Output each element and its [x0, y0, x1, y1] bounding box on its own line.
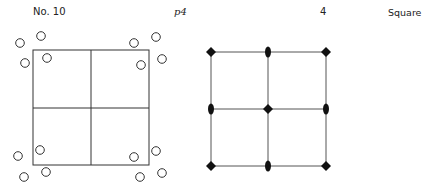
- motif-circle: [130, 39, 139, 48]
- motif-circle: [37, 32, 46, 41]
- fourfold-rotation-icon: [321, 161, 331, 171]
- motif-circle: [152, 147, 161, 156]
- fourfold-rotation-icon: [206, 161, 216, 171]
- twofold-rotation-icon: [265, 161, 271, 172]
- fourfold-rotation-icon: [321, 47, 331, 57]
- motif-circle: [36, 146, 45, 155]
- motif-circle: [130, 153, 139, 162]
- motif-circle: [14, 152, 23, 161]
- symmetry-element-diagram: [206, 47, 331, 172]
- fourfold-rotation-icon: [206, 47, 216, 57]
- motif-circle: [42, 168, 51, 177]
- motif-circle: [158, 169, 167, 178]
- motif-circle: [158, 55, 167, 64]
- motif-circle: [137, 61, 146, 70]
- fourfold-rotation-icon: [263, 104, 273, 114]
- motif-circle: [16, 39, 25, 48]
- motif-circle: [43, 54, 52, 63]
- motif-circle: [136, 173, 145, 182]
- twofold-rotation-icon: [208, 104, 214, 115]
- twofold-rotation-icon: [265, 47, 271, 58]
- p4-diagram: [0, 0, 431, 194]
- motif-circle: [20, 173, 29, 182]
- motif-circle: [152, 33, 161, 42]
- motif-circle: [21, 59, 30, 68]
- motif-diagram: [14, 32, 167, 182]
- twofold-rotation-icon: [323, 104, 329, 115]
